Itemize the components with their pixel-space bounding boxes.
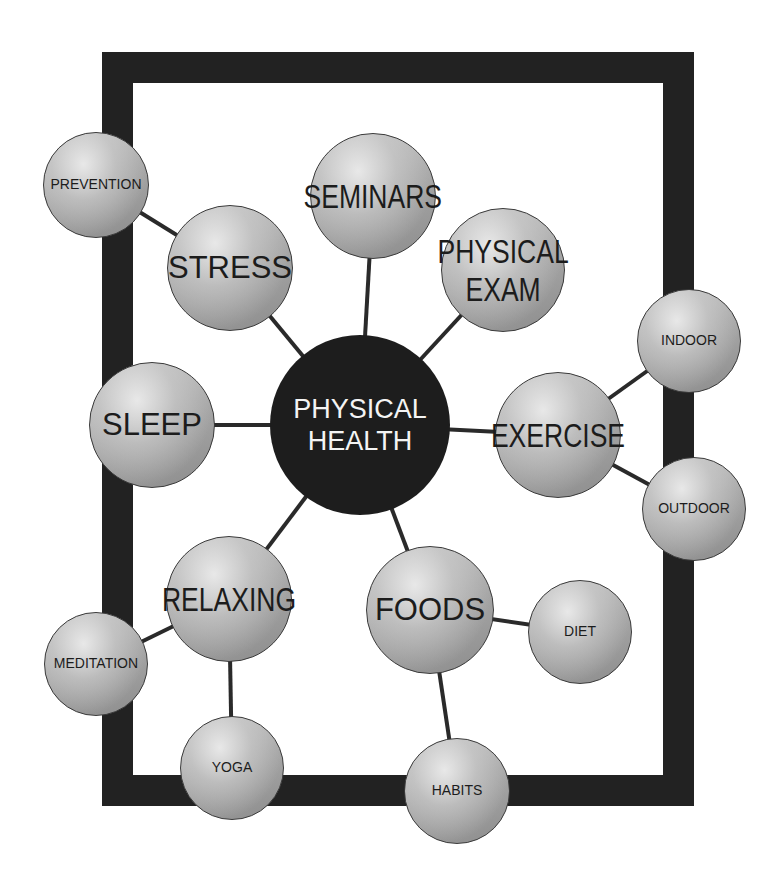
- node-label-yoga: YOGA: [212, 760, 252, 776]
- node-label-physical-health: PHYSICAL HEALTH: [293, 393, 427, 458]
- node-label-seminars: SEMINARS: [304, 177, 443, 215]
- node-label-indoor: INDOOR: [661, 333, 717, 349]
- node-label-exercise: EXERCISE: [491, 416, 625, 454]
- node-label-physical-exam: PHYSICAL EXAM: [437, 232, 568, 308]
- node-label-outdoor: OUTDOOR: [658, 501, 730, 517]
- node-label-habits: HABITS: [432, 783, 483, 799]
- node-label-diet: DIET: [564, 624, 596, 640]
- node-label-relaxing: RELAXING: [162, 580, 296, 618]
- node-prevention: PREVENTION: [43, 132, 149, 238]
- node-indoor: INDOOR: [637, 289, 741, 393]
- node-label-meditation: MEDITATION: [54, 656, 138, 672]
- node-label-prevention: PREVENTION: [50, 177, 141, 193]
- node-label-foods: FOODS: [375, 593, 485, 628]
- node-label-stress: STRESS: [168, 251, 292, 286]
- node-relaxing: RELAXING: [166, 536, 292, 662]
- node-yoga: YOGA: [180, 716, 284, 820]
- node-exercise: EXERCISE: [495, 372, 621, 498]
- node-physical-exam: PHYSICAL EXAM: [441, 208, 565, 332]
- node-label-sleep: SLEEP: [102, 408, 202, 443]
- node-meditation: MEDITATION: [44, 612, 148, 716]
- node-physical-health: PHYSICAL HEALTH: [270, 335, 450, 515]
- mind-map-diagram: PHYSICAL HEALTH STRESSSEMINARSPHYSICAL E…: [0, 0, 784, 894]
- node-diet: DIET: [528, 580, 632, 684]
- node-outdoor: OUTDOOR: [642, 457, 746, 561]
- node-sleep: SLEEP: [89, 362, 215, 488]
- node-stress: STRESS: [167, 205, 293, 331]
- node-foods: FOODS: [366, 546, 494, 674]
- node-habits: HABITS: [404, 738, 510, 844]
- node-seminars: SEMINARS: [310, 133, 436, 259]
